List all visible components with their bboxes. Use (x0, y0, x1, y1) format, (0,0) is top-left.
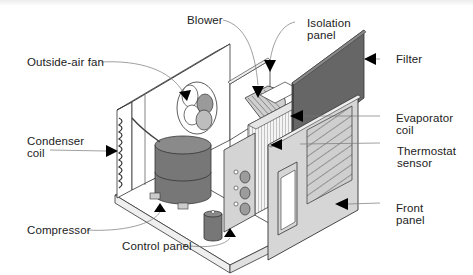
arrow-filter-icon (364, 53, 376, 65)
label-thermostat-sensor: Thermostat sensor (397, 145, 456, 169)
label-evaporator-coil: Evaporator coil (396, 112, 453, 136)
label-compressor: Compressor (27, 224, 91, 236)
label-control-panel: Control panel (122, 240, 192, 252)
outside-air-fan (177, 82, 217, 134)
label-blower: Blower (187, 14, 223, 26)
label-filter: Filter (396, 53, 422, 65)
arrow-condenser-icon (106, 145, 118, 157)
label-condenser-coil: Condenser coil (27, 135, 84, 159)
label-front-panel: Front panel (396, 202, 425, 226)
label-outside-air-fan: Outside-air fan (27, 56, 104, 68)
label-isolation-panel: Isolation panel (307, 17, 351, 41)
